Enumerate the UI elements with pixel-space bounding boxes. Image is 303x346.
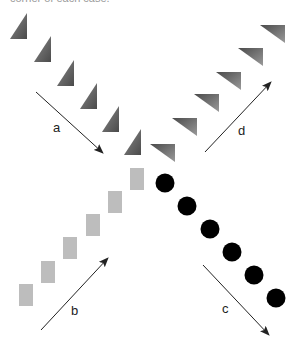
triangle-shape-a-3 <box>80 83 97 109</box>
sequence-d-triangles <box>150 25 285 162</box>
arrow-d-icon <box>205 82 271 152</box>
square-shape-b-1 <box>41 261 55 283</box>
circle-shape-c-1 <box>178 197 197 216</box>
triangle-shape-d-0 <box>150 144 175 162</box>
square-shape-b-4 <box>108 191 122 213</box>
direction-arrows: abcd <box>36 82 271 335</box>
arrow-label-d: d <box>238 123 245 138</box>
square-shape-b-2 <box>63 237 77 259</box>
arrow-label-c: c <box>222 301 229 316</box>
triangle-shape-a-1 <box>34 36 51 62</box>
circle-shape-c-3 <box>223 243 242 262</box>
triangle-shape-d-3 <box>216 72 241 90</box>
triangle-shape-d-5 <box>260 25 285 43</box>
motion-sequence-diagram: abcd <box>0 0 303 346</box>
square-shape-b-5 <box>130 168 144 190</box>
triangle-shape-d-2 <box>194 94 219 112</box>
sequence-b-squares <box>19 168 144 306</box>
circle-shape-c-0 <box>156 174 175 193</box>
triangle-shape-d-1 <box>172 118 197 136</box>
triangle-shape-a-0 <box>10 13 27 39</box>
square-shape-b-3 <box>86 214 100 236</box>
triangle-shape-a-4 <box>102 106 119 132</box>
sequence-a-triangles <box>10 13 141 155</box>
triangle-shape-d-4 <box>238 48 263 66</box>
sequence-c-circles <box>156 174 286 308</box>
circle-shape-c-2 <box>201 220 220 239</box>
square-shape-b-0 <box>19 284 33 306</box>
triangle-shape-a-5 <box>124 129 141 155</box>
arrow-label-a: a <box>53 120 61 135</box>
triangle-shape-a-2 <box>57 60 74 86</box>
circle-shape-c-4 <box>245 266 264 285</box>
circle-shape-c-5 <box>267 289 286 308</box>
arrow-label-b: b <box>71 303 78 318</box>
